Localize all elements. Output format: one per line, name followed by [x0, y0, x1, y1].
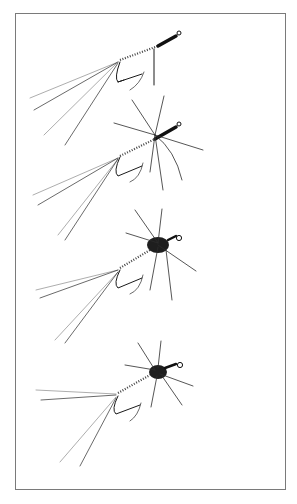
fly-stage-2 — [33, 96, 203, 240]
fly-stage-4 — [36, 341, 193, 466]
thorax-legs — [126, 209, 196, 300]
fly-tying-illustration — [0, 0, 297, 504]
fly-stage-1 — [30, 31, 181, 145]
fly-stage-3 — [36, 209, 196, 343]
hackle-legs — [114, 96, 203, 190]
